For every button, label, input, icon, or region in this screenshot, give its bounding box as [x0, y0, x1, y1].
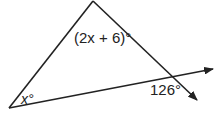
top-angle-label: (2x + 6)° [74, 29, 131, 46]
side-right-ray [93, 1, 197, 100]
base-ray [9, 69, 213, 108]
triangle-diagram: (2x + 6)° 126° x° [0, 0, 217, 122]
exterior-angle-label: 126° [150, 81, 181, 98]
bottom-left-angle-label: x° [20, 91, 34, 107]
